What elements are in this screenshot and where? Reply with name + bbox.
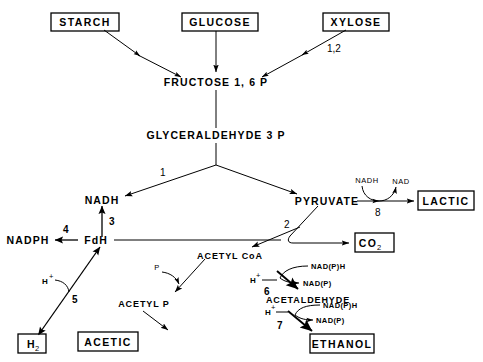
- cofactor-acetaldehyde-out: NAD(P): [303, 279, 332, 288]
- cofactor-lactic-out: NAD: [392, 177, 409, 186]
- cofactor-ethanol-in: NAD(P)H: [323, 301, 357, 310]
- hplus-sup-acetaldehyde: +: [256, 271, 261, 280]
- cofactor-acetaldehyde-in: NAD(P)H: [311, 262, 345, 271]
- cofactors-layer: NADH NAD P NAD(P)H NAD(P) H + NAD(P)H NA…: [0, 0, 483, 362]
- hplus-label-h2: H: [42, 277, 48, 286]
- hplus-sup-h2: +: [49, 272, 54, 281]
- cofactor-ethanol-hplus: H +: [265, 303, 276, 317]
- hplus-sup-ethanol: +: [271, 303, 276, 312]
- pathway-diagram: STARCH GLUCOSE XYLOSE LACTIC CO 2 ACETIC…: [0, 0, 483, 362]
- cofactor-acetaldehyde-hplus: H +: [250, 271, 261, 285]
- cofactor-h2-hplus: H +: [42, 272, 54, 286]
- cofactor-lactic-in: NADH: [355, 176, 378, 185]
- cofactor-ethanol-out: NAD(P): [316, 316, 345, 325]
- cofactor-acetyl-p-phosphate: P: [154, 263, 160, 272]
